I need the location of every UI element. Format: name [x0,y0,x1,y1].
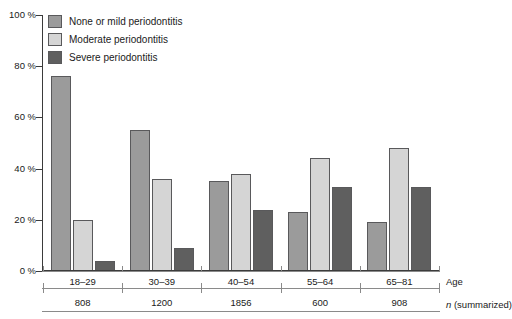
y-axis-tick [36,66,42,67]
bar [174,248,194,271]
y-axis-tick [36,117,42,118]
bar [288,212,308,271]
column-separator-tick [201,288,202,293]
bar-group [281,15,360,271]
column-separator-tick [122,266,123,271]
table-rule [42,271,440,272]
y-axis-tick [36,15,42,16]
column-separator-tick [360,288,361,293]
bar [130,130,150,271]
bar-group [43,15,122,271]
bar [231,174,251,271]
bar [411,187,431,271]
bar [152,179,172,271]
n-summarized-value: 908 [360,298,439,308]
n-summarized-value: 808 [43,298,122,308]
y-axis-tick-label: 40 % [2,164,36,174]
table-rule [42,311,440,312]
n-summarized-value: 1856 [201,298,280,308]
bar [209,181,229,271]
y-axis-tick-label: 20 % [2,215,36,225]
column-separator-tick [122,288,123,293]
column-separator-tick [281,266,282,271]
age-group-label: 40–54 [201,277,280,287]
n-summarized-value: 600 [281,298,360,308]
plot-area [43,15,439,271]
bar-group [122,15,201,271]
y-axis-tick-label: 100 % [2,10,36,20]
bar-group [360,15,439,271]
bar [310,158,330,271]
bar [73,220,93,271]
column-separator-tick [281,288,282,293]
bar [253,210,273,271]
bar [51,76,71,271]
age-group-label: 18–29 [43,277,122,287]
column-separator-tick [43,288,44,293]
y-axis-tick-label: 60 % [2,112,36,122]
bar [389,148,409,271]
bar [332,187,352,271]
y-axis-tick [36,169,42,170]
age-row-label: Age [446,277,463,287]
y-axis-tick-label: 80 % [2,61,36,71]
n-row-label: n (summarized) [446,300,512,310]
n-summarized-value: 1200 [122,298,201,308]
column-separator-tick [201,266,202,271]
column-separator-tick [439,288,440,293]
column-separator-tick [360,266,361,271]
column-separator-tick [43,266,44,271]
age-group-label: 65–81 [360,277,439,287]
y-axis-tick [36,220,42,221]
y-axis-tick-label: 0 % [2,266,36,276]
bar-group [201,15,280,271]
age-group-label: 30–39 [122,277,201,287]
column-separator-tick [439,266,440,271]
table-rule [42,288,440,289]
age-group-label: 55–64 [281,277,360,287]
bar [367,222,387,271]
